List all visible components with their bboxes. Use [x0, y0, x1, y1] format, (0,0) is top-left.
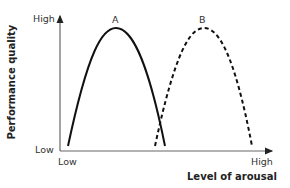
x-tick-low: Low — [58, 156, 77, 167]
y-tick-low: Low — [35, 144, 54, 155]
curve-a-label: A — [112, 14, 119, 25]
chart-canvas — [0, 0, 290, 188]
curve-b-label: B — [199, 14, 206, 25]
x-axis-label: Level of arousal — [187, 171, 277, 182]
y-axis-label: Performance quality — [6, 30, 17, 140]
curve-b — [155, 28, 252, 146]
y-tick-high: High — [33, 13, 55, 24]
curve-a — [68, 28, 165, 146]
x-tick-high: High — [251, 156, 273, 167]
